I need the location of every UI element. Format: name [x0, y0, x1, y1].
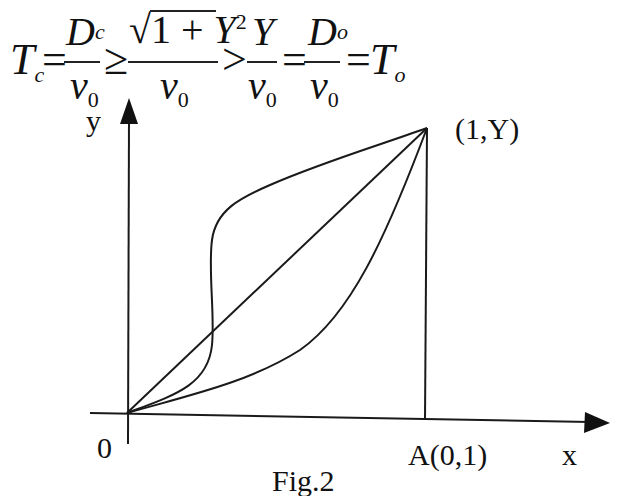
straight-line-path	[127, 128, 427, 413]
point-a-label: A(0,1)	[408, 440, 487, 470]
y-axis-label: y	[86, 106, 101, 136]
path-diagram	[0, 0, 617, 496]
x-axis-arrowhead-icon	[584, 412, 610, 433]
origin-label: 0	[97, 433, 112, 463]
figure-caption: Fig.2	[272, 466, 335, 496]
point-top-label: (1,Y)	[455, 114, 519, 144]
vertical-line-to-a	[425, 128, 427, 420]
y-axis-arrowhead-icon	[120, 98, 138, 124]
y-axis-line	[128, 118, 129, 444]
x-axis-label: x	[562, 440, 577, 470]
x-axis-line	[90, 413, 590, 422]
